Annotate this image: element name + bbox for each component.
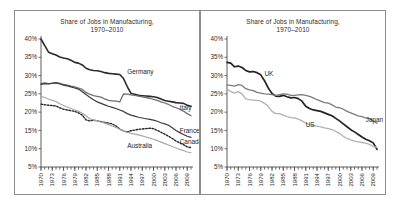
x-axis-tick-label: 1970 bbox=[37, 172, 44, 186]
x-axis-tick-label: 1997 bbox=[138, 172, 145, 186]
y-axis-tick-label: 15% bbox=[210, 127, 223, 134]
series-line-italy bbox=[41, 83, 191, 116]
x-axis-tick-label: 2000 bbox=[150, 172, 157, 186]
y-axis-tick-label: 20% bbox=[210, 108, 223, 115]
x-axis-tick-label: 1982 bbox=[268, 172, 275, 186]
x-axis-tick-label: 1976 bbox=[246, 172, 253, 186]
series-label-france: France bbox=[180, 127, 199, 134]
y-axis-tick-label: 30% bbox=[210, 72, 223, 79]
x-axis-tick-label: 1994 bbox=[313, 172, 320, 186]
x-axis-tick-label: 1985 bbox=[279, 172, 286, 186]
y-axis-tick-label: 10% bbox=[210, 145, 223, 152]
series-line-uk bbox=[227, 62, 377, 149]
x-axis-tick-label: 2003 bbox=[161, 172, 168, 186]
y-axis-tick-label: 40% bbox=[210, 35, 223, 42]
series-line-germany bbox=[41, 39, 191, 106]
x-axis-tick-label: 1994 bbox=[127, 172, 134, 186]
x-axis-tick-label: 2009 bbox=[183, 172, 190, 186]
series-label-uk: UK bbox=[265, 70, 275, 77]
x-axis-tick-label: 1988 bbox=[105, 172, 112, 186]
x-axis-tick-label: 2000 bbox=[336, 172, 343, 186]
x-axis-tick-label: 1991 bbox=[116, 172, 123, 186]
chart-plot-right: 40%35%30%25%20%15%10%5%19701973197619791… bbox=[201, 11, 385, 194]
x-axis-tick-label: 1991 bbox=[302, 172, 309, 186]
x-axis-tick-label: 1988 bbox=[291, 172, 298, 186]
y-axis-tick-label: 25% bbox=[210, 90, 223, 97]
chart-plot-left: 40%35%30%25%20%15%10%5%19701973197619791… bbox=[15, 11, 199, 194]
series-line-japan bbox=[227, 85, 377, 123]
y-axis-tick-label: 35% bbox=[24, 53, 37, 60]
series-line-france bbox=[41, 83, 191, 137]
series-line-us bbox=[227, 89, 377, 148]
series-label-us: US bbox=[306, 121, 315, 128]
y-axis-tick-label: 35% bbox=[210, 53, 223, 60]
y-axis-tick-label: 10% bbox=[24, 145, 37, 152]
x-axis-tick-label: 1976 bbox=[60, 172, 67, 186]
x-axis-tick-label: 1973 bbox=[48, 172, 55, 186]
series-label-germany: Germany bbox=[127, 68, 154, 76]
y-axis-tick-label: 5% bbox=[28, 163, 38, 170]
y-axis-tick-label: 20% bbox=[24, 108, 37, 115]
x-axis-tick-label: 2003 bbox=[347, 172, 354, 186]
x-axis-tick-label: 1973 bbox=[234, 172, 241, 186]
figure-root: Share of Jobs in Manufacturing, 1970–201… bbox=[0, 0, 403, 202]
x-axis-tick-label: 2006 bbox=[172, 172, 179, 186]
x-axis-tick-label: 1979 bbox=[71, 172, 78, 186]
x-axis-tick-label: 1985 bbox=[93, 172, 100, 186]
y-axis-tick-label: 30% bbox=[24, 72, 37, 79]
chart-panel-left: Share of Jobs in Manufacturing, 1970–201… bbox=[14, 10, 200, 195]
x-axis-tick-label: 1982 bbox=[82, 172, 89, 186]
y-axis-tick-label: 25% bbox=[24, 90, 37, 97]
chart-panel-right: Share of Jobs in Manufacturing, 1970–201… bbox=[200, 10, 386, 195]
x-axis-tick-label: 1997 bbox=[324, 172, 331, 186]
series-label-italy: Italy bbox=[180, 104, 193, 112]
x-axis-tick-label: 2006 bbox=[358, 172, 365, 186]
y-axis-tick-label: 15% bbox=[24, 127, 37, 134]
series-label-japan: Japan bbox=[366, 116, 384, 124]
series-label-canada: Canada bbox=[180, 138, 199, 145]
x-axis-tick-label: 1979 bbox=[257, 172, 264, 186]
y-axis-tick-label: 5% bbox=[214, 163, 224, 170]
x-axis-tick-label: 2009 bbox=[369, 172, 376, 186]
series-label-australia: Australia bbox=[127, 142, 152, 149]
x-axis-tick-label: 1970 bbox=[223, 172, 230, 186]
y-axis-tick-label: 40% bbox=[24, 35, 37, 42]
